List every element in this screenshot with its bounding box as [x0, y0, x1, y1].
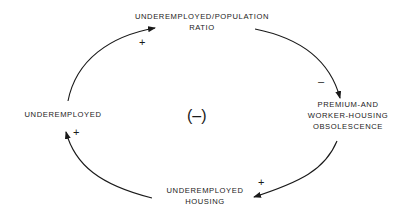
node-label-line: WORKER-HOUSING: [296, 110, 400, 121]
node-label-line: UNDEREMPLOYED/POPULATION: [127, 11, 277, 22]
node-label-line: HOUSING: [155, 196, 255, 207]
loop-polarity-label: (–): [187, 108, 207, 124]
node-underemployed: UNDEREMPLOYED: [18, 109, 108, 120]
link-sign-top-to-right: –: [318, 76, 324, 87]
node-label-line: UNDEREMPLOYED: [18, 109, 108, 120]
node-underemployed-population-ratio: UNDEREMPLOYED/POPULATION RATIO: [127, 11, 277, 33]
node-label-line: OBSOLESCENCE: [296, 121, 400, 132]
node-underemployed-housing: UNDEREMPLOYED HOUSING: [155, 185, 255, 207]
arrow-top-to-right: [255, 29, 340, 98]
arrow-bottom-to-left: [66, 132, 152, 198]
node-label-line: RATIO: [127, 22, 277, 33]
causal-loop-diagram: UNDEREMPLOYED/POPULATION RATIO PREMIUM-A…: [0, 0, 406, 222]
node-premium-worker-housing-obsolescence: PREMIUM-AND WORKER-HOUSING OBSOLESCENCE: [296, 99, 400, 132]
link-sign-left-to-top: +: [139, 37, 145, 48]
link-sign-right-to-bottom: +: [258, 177, 264, 188]
link-sign-bottom-to-left: +: [73, 127, 79, 138]
arrow-right-to-bottom: [254, 141, 337, 197]
node-label-line: UNDEREMPLOYED: [155, 185, 255, 196]
node-label-line: PREMIUM-AND: [296, 99, 400, 110]
